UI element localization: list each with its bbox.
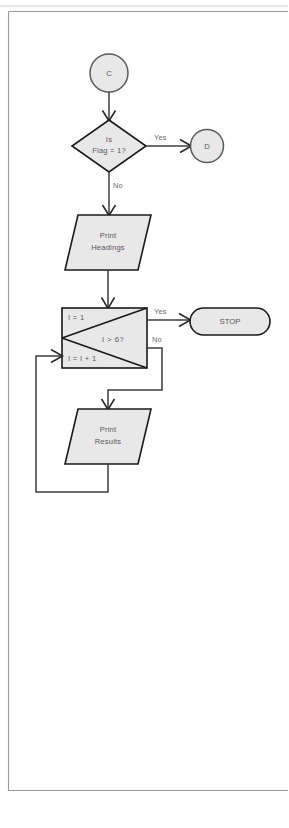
edge-label-loop-no: No <box>152 335 162 344</box>
stop-label: STOP <box>219 317 240 326</box>
edge-label-decision-yes: Yes <box>154 133 167 142</box>
decision-flag-line2: Flag = 1? <box>92 146 126 155</box>
connector-c-label: C <box>106 69 112 78</box>
print-results-line1: Print <box>100 425 117 434</box>
connector-d-label: D <box>204 142 210 151</box>
page-border <box>9 12 289 791</box>
diagram-page: C Is Flag = 1? Yes D No Print Headings I… <box>0 0 288 828</box>
loop-increment-label: I = I + 1 <box>68 354 96 363</box>
edge-label-decision-no: No <box>113 181 123 190</box>
print-headings-line2: Headings <box>91 243 125 252</box>
edge-label-loop-yes: Yes <box>154 307 167 316</box>
print-results-line2: Results <box>95 437 122 446</box>
loop-condition-label: I > 6? <box>102 335 124 344</box>
flowchart-canvas: C Is Flag = 1? Yes D No Print Headings I… <box>0 0 288 828</box>
decision-flag-line1: Is <box>106 135 112 144</box>
print-headings-line1: Print <box>100 231 117 240</box>
loop-init-label: I = 1 <box>68 313 85 322</box>
